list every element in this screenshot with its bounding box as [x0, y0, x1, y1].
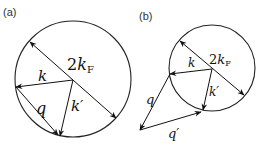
- svg-text:2kF: 2kF: [209, 52, 231, 68]
- panel-b: (b) 2kF k k′ q q′: [139, 10, 255, 141]
- panel-a-label: (a): [3, 6, 16, 18]
- q-prime-label-b: q′: [168, 126, 179, 141]
- q-arrow-b: [140, 74, 170, 130]
- panel-b-label: (b): [139, 10, 152, 22]
- diameter-label-b: 2kF: [209, 52, 231, 68]
- k-label-b: k: [188, 56, 195, 70]
- k-label-a: k: [38, 67, 47, 85]
- panel-a: (a) 2kF k k′ q: [3, 6, 131, 137]
- q-label-a: q: [36, 99, 46, 118]
- k-prime-label-a: k′: [71, 97, 84, 115]
- svg-text:2kF: 2kF: [67, 55, 94, 75]
- q-label-b: q: [146, 92, 154, 107]
- fermi-circle-a: [15, 21, 131, 137]
- fermi-sphere-diagram: (a) 2kF k k′ q (b) 2: [0, 0, 268, 145]
- k-prime-label-b: k′: [209, 85, 219, 99]
- diameter-label-a: 2kF: [67, 55, 94, 75]
